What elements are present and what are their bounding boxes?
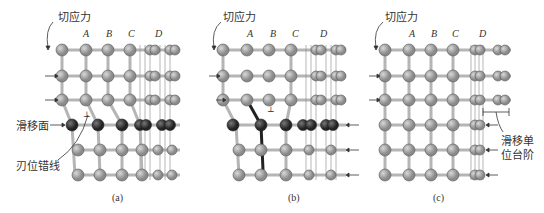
- stress-label: 切应力: [58, 8, 91, 24]
- svg-text:⊥: ⊥: [83, 110, 91, 119]
- panel-c: 切应力 A B C D 滑移单 位台阶 (c): [363, 0, 544, 213]
- dislocation-line-label: 刃位错线: [16, 157, 60, 173]
- column-label-a: A: [409, 28, 415, 39]
- panel-b: ⊥ 切应力 A B C D (b): [181, 0, 362, 213]
- column-label-c: C: [452, 28, 459, 39]
- slip-plane-label: 滑移面: [16, 117, 49, 133]
- column-label-a: A: [83, 28, 89, 39]
- column-label-b: B: [270, 28, 276, 39]
- column-label-d: D: [320, 28, 327, 39]
- lattice-diagram-a: ⊥: [0, 0, 181, 213]
- stress-label: 切应力: [223, 8, 256, 24]
- slip-step-label-line2: 位台阶: [501, 146, 534, 162]
- panel-a: ⊥ 切应力 A B C D 滑移面 刃位错线 (a): [0, 0, 181, 213]
- column-label-a: A: [247, 28, 253, 39]
- column-label-b: B: [106, 28, 112, 39]
- column-label-d: D: [479, 28, 486, 39]
- caption-b: (b): [288, 192, 300, 203]
- svg-text:⊥: ⊥: [267, 105, 275, 114]
- column-label-c: C: [292, 28, 299, 39]
- caption-a: (a): [112, 192, 123, 203]
- caption-c: (c): [433, 192, 444, 203]
- column-label-b: B: [431, 28, 437, 39]
- column-label-c: C: [128, 28, 135, 39]
- column-label-d: D: [155, 28, 162, 39]
- stress-label: 切应力: [385, 8, 418, 24]
